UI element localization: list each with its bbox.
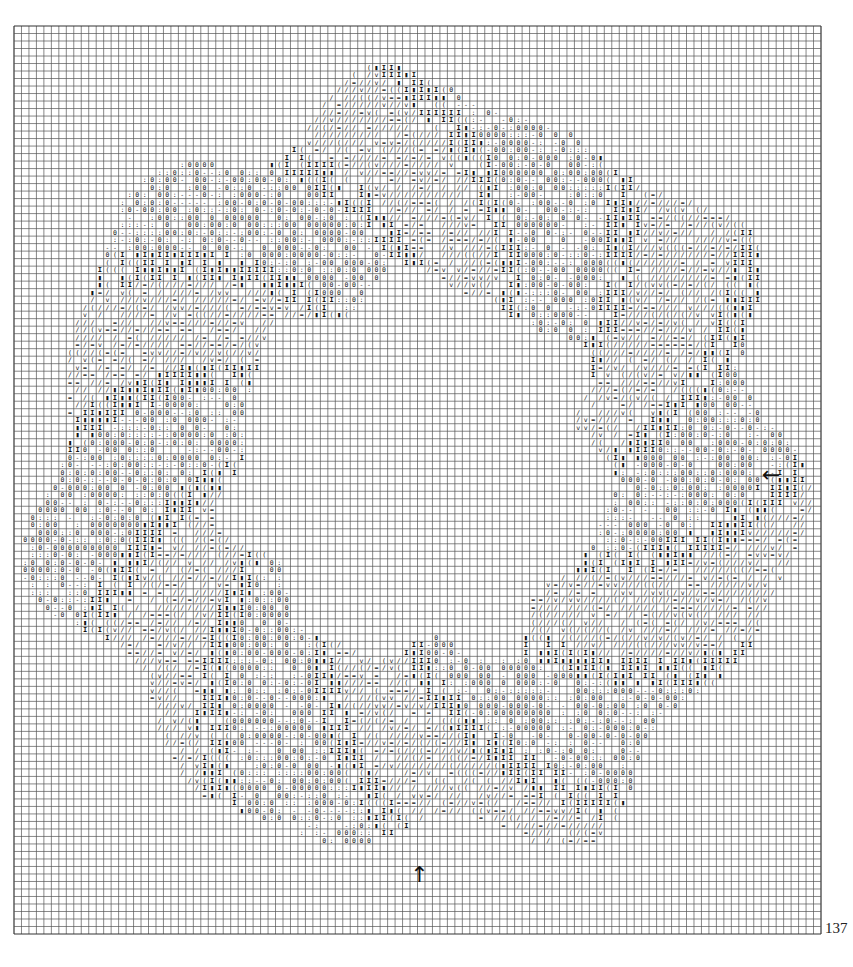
stitch-symbol: 0 [539, 169, 543, 177]
stitch-symbol: = [404, 229, 408, 237]
stitch-symbol: ( [539, 634, 543, 642]
stitch-symbol: - [741, 424, 745, 432]
stitch-symbol: - [232, 446, 236, 454]
stitch-symbol: 0 [561, 319, 565, 327]
stitch-symbol: / [180, 717, 184, 725]
stitch-symbol: = [105, 349, 109, 357]
stitch-symbol: I [509, 266, 513, 274]
stitch-symbol: - [232, 244, 236, 252]
stitch-symbol: / [681, 229, 685, 237]
stitch-symbol: v [636, 394, 640, 402]
stitch-symbol: 0 [352, 837, 356, 845]
stitch-symbol: ( [277, 161, 281, 169]
stitch-symbol: 0 [105, 551, 109, 559]
stitch-symbol: ▮ [225, 762, 229, 770]
stitch-symbol: ( [628, 356, 632, 364]
stitch-symbol: = [464, 289, 468, 297]
stitch-symbol: 0 [225, 184, 229, 192]
stitch-symbol: / [195, 634, 199, 642]
stitch-symbol: = [479, 814, 483, 822]
stitch-symbol: ( [218, 679, 222, 687]
stitch-symbol: / [658, 596, 662, 604]
stitch-symbol: / [434, 214, 438, 222]
stitch-symbol: ▮ [494, 206, 498, 214]
stitch-symbol: / [666, 364, 670, 372]
stitch-symbol: 0 [636, 754, 640, 762]
stitch-symbol: ( [785, 461, 789, 469]
stitch-symbol: - [210, 394, 214, 402]
stitch-symbol: 0 [741, 469, 745, 477]
stitch-symbol: / [442, 191, 446, 199]
stitch-symbol: - [300, 792, 304, 800]
stitch-symbol: ( [487, 724, 491, 732]
stitch-symbol: I [143, 394, 147, 402]
stitch-symbol: v [389, 664, 393, 672]
stitch-symbol: 0 [561, 184, 565, 192]
stitch-symbol: I [613, 169, 617, 177]
stitch-symbol: / [218, 491, 222, 499]
stitch-symbol: v [628, 589, 632, 597]
stitch-symbol: v [419, 702, 423, 710]
stitch-symbol: / [636, 184, 640, 192]
stitch-symbol: = [688, 559, 692, 567]
stitch-symbol: 0 [599, 236, 603, 244]
stitch-symbol: 0 [501, 176, 505, 184]
stitch-symbol: / [696, 221, 700, 229]
stitch-symbol: I [501, 304, 505, 312]
stitch-symbol: / [584, 394, 588, 402]
stitch-symbol: / [741, 596, 745, 604]
stitch-symbol: v [606, 394, 610, 402]
stitch-symbol: = [419, 199, 423, 207]
stitch-symbol: v [614, 364, 618, 372]
stitch-symbol: 0 [61, 611, 65, 619]
stitch-symbol: 0 [247, 754, 251, 762]
stitch-symbol: 0 [546, 176, 550, 184]
stitch-symbol: / [733, 589, 737, 597]
stitch-symbol: 0 [614, 687, 618, 695]
stitch-symbol: ▮ [658, 664, 662, 672]
stitch-symbol: / [389, 146, 393, 154]
stitch-symbol: ▮ [382, 221, 386, 229]
stitch-symbol: 0 [300, 754, 304, 762]
stitch-symbol: / [681, 349, 685, 357]
stitch-symbol: = [188, 574, 192, 582]
stitch-symbol: - [218, 394, 222, 402]
stitch-symbol: / [173, 724, 177, 732]
stitch-symbol: / [158, 724, 162, 732]
stitch-symbol: ▮ [105, 416, 109, 424]
stitch-symbol: / [434, 807, 438, 815]
stitch-symbol: 0 [76, 506, 80, 514]
stitch-symbol: = [68, 394, 72, 402]
stitch-symbol: / [621, 349, 625, 357]
stitch-symbol: / [636, 349, 640, 357]
stitch-symbol: 0 [621, 476, 625, 484]
stitch-symbol: I [292, 169, 296, 177]
stitch-symbol: I [232, 371, 236, 379]
stitch-symbol: I [434, 702, 438, 710]
stitch-symbol: - [68, 514, 72, 522]
stitch-symbol: : [195, 229, 199, 237]
stitch-symbol: : [247, 386, 251, 394]
stitch-symbol: I [509, 311, 513, 319]
stitch-symbol: = [427, 236, 431, 244]
stitch-symbol: I [180, 514, 184, 522]
stitch-symbol: / [726, 626, 730, 634]
stitch-symbol: = [524, 829, 528, 837]
stitch-symbol: ( [105, 566, 109, 574]
stitch-symbol: = [756, 566, 760, 574]
stitch-symbol: = [210, 574, 214, 582]
stitch-symbol: = [389, 747, 393, 755]
stitch-symbol: / [165, 739, 169, 747]
stitch-symbol: 0 [688, 687, 692, 695]
stitch-symbol: / [636, 581, 640, 589]
stitch-symbol: ▮ [210, 792, 214, 800]
stitch-symbol: ▮ [748, 281, 752, 289]
stitch-symbol: = [345, 649, 349, 657]
stitch-symbol: I [105, 634, 109, 642]
stitch-symbol: I [613, 289, 617, 297]
stitch-symbol: v [404, 702, 408, 710]
stitch-symbol: - [703, 506, 707, 514]
stitch-symbol: : [53, 574, 57, 582]
stitch-symbol: : [210, 236, 214, 244]
stitch-symbol: - [628, 694, 632, 702]
